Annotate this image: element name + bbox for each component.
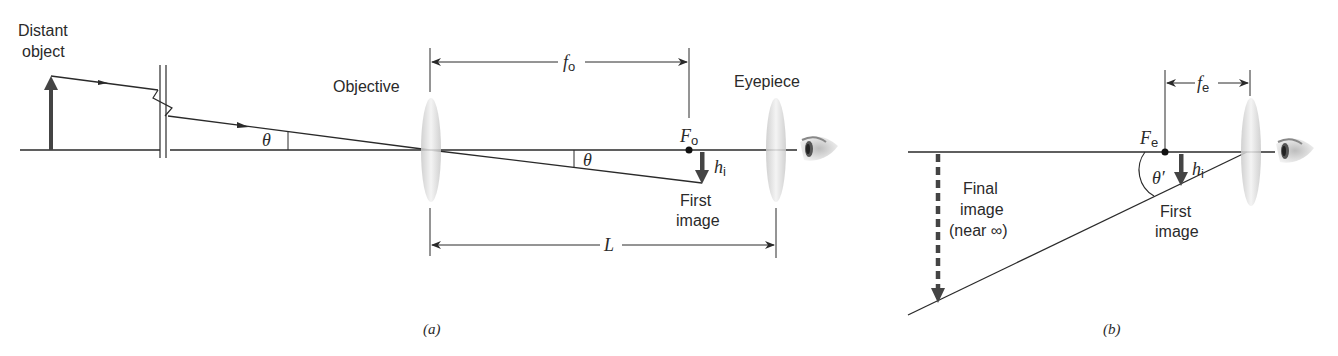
eyepiece-lens-a [766, 98, 786, 202]
distant-object-label-2: object [22, 43, 65, 60]
image-height-a: hi [714, 157, 726, 179]
distant-object-arrow [44, 76, 58, 150]
eye-icon [800, 136, 838, 160]
caption-a: (a) [423, 321, 441, 338]
final-image-label-1: Final [963, 180, 998, 197]
focal-point-fe [1162, 149, 1169, 156]
final-image-label-3: (near ∞) [949, 222, 1008, 239]
angle-theta-right: θ [583, 150, 592, 170]
angle-theta-left: θ [262, 130, 271, 150]
eyepiece-label: Eyepiece [734, 73, 800, 90]
focal-length-fe: fe [1197, 73, 1209, 95]
final-image-label-2: image [960, 201, 1004, 218]
angle-theta-prime: θ′ [1152, 168, 1166, 188]
first-image-label-a-1: First [680, 192, 712, 209]
telescope-diagram: θ θ Objective fo Fo hi First image Eyepi… [0, 0, 1338, 356]
objective-lens [421, 98, 441, 202]
first-image-arrow-a [695, 152, 709, 184]
image-height-b: hi [1192, 159, 1204, 181]
focal-point-fe-label: Fe [1139, 128, 1158, 150]
caption-b: (b) [1103, 321, 1121, 338]
focal-point-fo-label: Fo [679, 126, 698, 148]
axis-break-icon [153, 65, 172, 158]
final-image-arrow [931, 154, 945, 303]
ray-arrow-icon [98, 80, 108, 85]
focal-length-fo: fo [563, 52, 575, 74]
first-image-label-b-2: image [1155, 223, 1199, 240]
objective-label: Objective [333, 78, 400, 95]
length-L: L [603, 235, 614, 255]
distant-object-label-1: Distant [18, 22, 68, 39]
panel-a: θ θ Objective fo Fo hi First image Eyepi… [18, 22, 838, 338]
first-image-label-a-2: image [676, 212, 720, 229]
eyepiece-lens-b [1241, 98, 1261, 206]
first-image-label-b-1: First [1160, 203, 1192, 220]
eye-icon [1276, 138, 1314, 162]
panel-b: fe Fe θ′ hi First image Final image (nea… [908, 70, 1314, 338]
